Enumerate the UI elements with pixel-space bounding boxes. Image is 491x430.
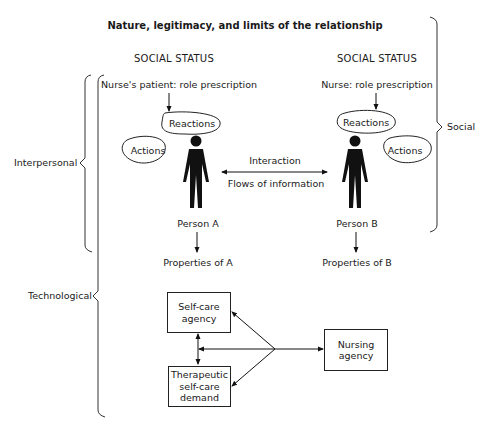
arrow-branch-to-selfcare: [232, 312, 275, 349]
therapeutic-self-care-demand-box: Therapeutic self-care demand: [168, 366, 231, 407]
person-a-label: Person A: [177, 218, 218, 229]
social-status-a: SOCIAL STATUS: [134, 53, 214, 64]
reactions-b-label: Reactions: [343, 117, 389, 128]
social-status-b: SOCIAL STATUS: [337, 53, 417, 64]
person-a-figure: [183, 136, 209, 209]
reactions-a-label: Reactions: [169, 118, 215, 129]
social-brace: [430, 17, 442, 232]
diagram-title: Nature, legitimacy, and limits of the re…: [107, 20, 382, 31]
flows-of-information-label: Flows of information: [228, 178, 325, 189]
technological-brace: [93, 75, 105, 417]
social-label: Social: [447, 121, 475, 132]
interpersonal-label: Interpersonal: [14, 157, 77, 168]
actions-a-label: Actions: [131, 145, 166, 156]
technological-label: Technological: [28, 290, 92, 301]
interpersonal-brace: [80, 75, 92, 252]
actions-b-label: Actions: [388, 145, 423, 156]
self-care-agency-box: Self-care agency: [167, 292, 231, 333]
diagram-canvas: Nature, legitimacy, and limits of the re…: [0, 0, 491, 430]
role-prescription-a: Nurse's patient: role prescription: [101, 79, 257, 90]
role-prescription-b: Nurse: role prescription: [321, 79, 433, 90]
arrow-branch-to-therapeutic: [232, 349, 275, 386]
diagram-lines: [0, 0, 491, 430]
properties-a-label: Properties of A: [163, 257, 233, 268]
person-b-label: Person B: [336, 218, 377, 229]
interaction-label: Interaction: [249, 155, 301, 166]
properties-b-label: Properties of B: [322, 257, 392, 268]
nursing-agency-box: Nursing agency: [324, 329, 388, 371]
person-b-figure: [342, 136, 368, 209]
